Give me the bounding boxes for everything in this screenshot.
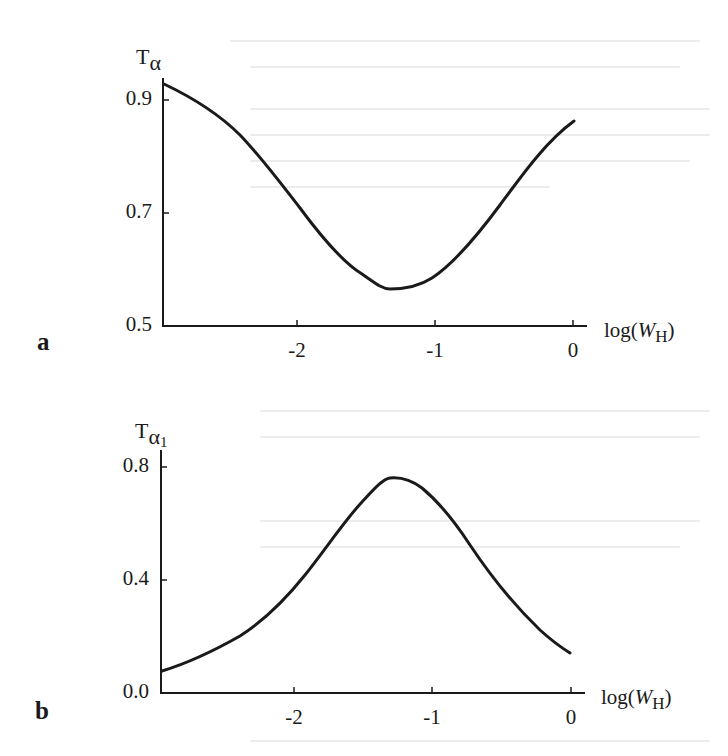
chart-b-ytick-0.4: 0.4 [89,566,149,591]
chart-a-ytick-0.7: 0.7 [92,199,152,224]
chart-a-axes [162,78,587,327]
chart-a-ytick-0.9: 0.9 [92,86,152,111]
chart-b-ytick-0.0: 0.0 [89,679,149,704]
chart-a-xtick-neg2: -2 [277,338,317,363]
chart-b-y-label: Tα1 [135,418,167,451]
chart-a-x-label: log(WH) [604,318,675,347]
chart-a-xtick-0: 0 [553,338,593,363]
panel-label-b: b [35,697,49,725]
chart-a-ytick-0.5: 0.5 [92,312,152,337]
chart-a-curve [164,84,574,289]
chart-b-x-label: log(WH) [601,685,672,714]
chart-a-y-label: Tα [136,44,161,76]
chart-b-xtick-0: 0 [551,705,591,730]
chart-b-xtick-neg1: -1 [412,705,452,730]
panel-label-a: a [37,328,50,356]
chart-b-ytick-0.8: 0.8 [89,453,149,478]
chart-a-plot [0,0,728,756]
chart-a-xtick-neg1: -1 [415,338,455,363]
chart-b-xtick-neg2: -2 [274,705,314,730]
